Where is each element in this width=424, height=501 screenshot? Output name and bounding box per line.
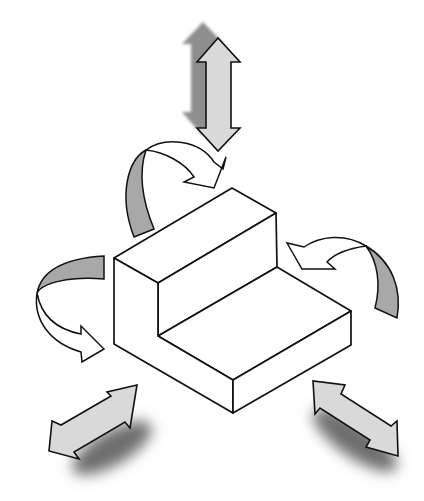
diagonal-arrow-bottom-right-icon [304,381,405,483]
curved-arrow-left-band [37,256,104,293]
vertical-double-arrow-icon [182,22,240,151]
curved-arrow-top-left-front [146,142,226,188]
diagram-canvas [0,0,424,501]
curved-arrow-right-band [366,246,398,318]
curved-arrow-right-front [287,237,366,269]
curved-arrow-left-front [36,293,104,362]
diagonal-arrow-bottom-left-icon [49,385,159,485]
curved-arrow-left-icon [36,256,104,362]
diagram-svg [0,0,424,501]
curved-arrow-top-left-band [126,150,154,237]
